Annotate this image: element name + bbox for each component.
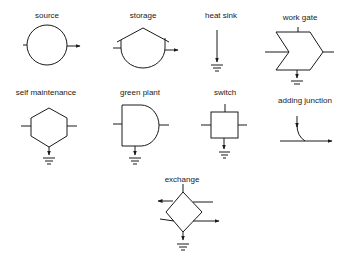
green-plant-label: green plant — [120, 89, 160, 97]
green-plant-symbol — [113, 105, 169, 164]
storage-symbol — [113, 28, 178, 68]
adding-junction-label: adding junction — [278, 97, 332, 105]
work-gate-label: work gate — [283, 14, 318, 22]
switch-label: switch — [214, 89, 236, 97]
adding-junction-symbol — [280, 116, 332, 141]
source-symbol — [23, 25, 80, 65]
switch-symbol — [201, 104, 247, 158]
source-label: source — [35, 12, 59, 20]
exchange-symbol — [158, 184, 219, 250]
storage-label: storage — [130, 12, 157, 20]
work-gate-symbol — [265, 27, 334, 84]
self-maintenance-label: self maintenance — [16, 89, 76, 97]
heat-sink-symbol — [211, 30, 223, 71]
exchange-label: exchange — [165, 176, 200, 184]
symbol-diagram: source storage heat sink work gate self … — [0, 0, 353, 258]
heat-sink-label: heat sink — [205, 12, 237, 20]
self-maintenance-symbol — [21, 108, 77, 164]
